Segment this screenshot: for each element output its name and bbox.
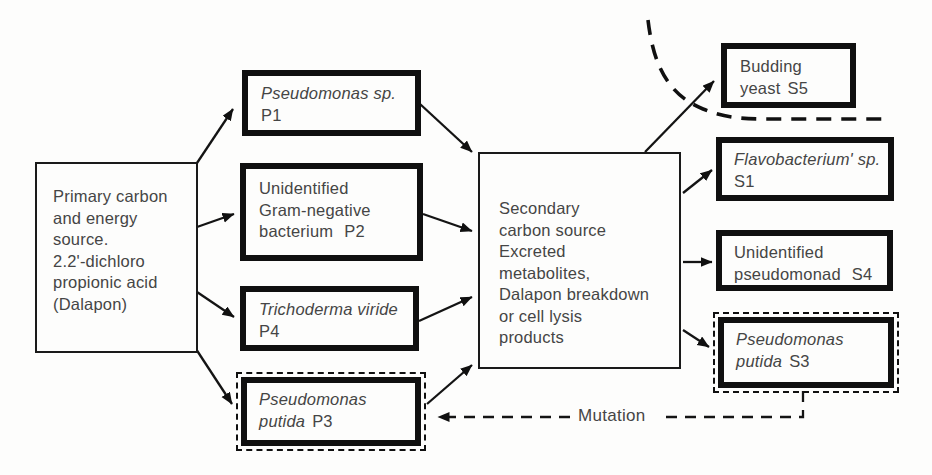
secondary-line: or cell lysis xyxy=(499,306,679,328)
strain-code: S3 xyxy=(789,352,810,370)
arrow-primary-to-p1 xyxy=(197,109,233,163)
arrow-primary-to-p4 xyxy=(197,292,234,317)
pseudomonas-putida-p3-dashed-outline: Pseudomonas putidaP3 xyxy=(236,372,426,451)
arrow-primary-to-p2 xyxy=(197,214,234,227)
diagram-canvas: Primary carbon and energy source. 2.2'-d… xyxy=(0,0,932,475)
mutation-label: Mutation xyxy=(578,406,646,426)
trichoderma-viride-p4-box: Trichoderma viride P4 xyxy=(240,286,419,351)
strain-code: S4 xyxy=(852,265,873,283)
pseudomonas-sp-p1-box: Pseudomonas sp. P1 xyxy=(242,70,421,136)
arrow-p2-to-secondary xyxy=(423,214,472,231)
secondary-line: Secondary xyxy=(499,198,679,220)
node-text: Unidentified xyxy=(259,178,417,200)
pseudomonas-putida-p3-box: Pseudomonas putidaP3 xyxy=(241,377,421,446)
arrow-secondary-to-s5 xyxy=(645,81,714,152)
secondary-line: products xyxy=(499,327,679,349)
strain-code: P3 xyxy=(312,412,333,430)
node-text: Budding xyxy=(740,56,850,78)
primary-carbon-source-box: Primary carbon and energy source. 2.2'-d… xyxy=(35,162,198,353)
unidentified-pseudomonad-s4-box: Unidentified pseudomonadS4 xyxy=(716,230,893,291)
species-name: Flavobacterium' sp. xyxy=(734,149,888,171)
primary-line: (Dalapon) xyxy=(53,294,188,316)
strain-code: S5 xyxy=(787,79,808,97)
pseudomonas-putida-s3-dashed-outline: Pseudomonas putidaS3 xyxy=(713,312,899,393)
mutation-dashed-line-right xyxy=(658,391,803,417)
budding-yeast-s5-box: Budding yeastS5 xyxy=(721,43,856,108)
primary-line: propionic acid xyxy=(53,272,188,294)
arrow-secondary-to-s3 xyxy=(683,330,709,347)
arrow-p4-to-secondary xyxy=(419,297,472,321)
pseudomonas-putida-s3-box: Pseudomonas putidaS3 xyxy=(718,317,894,388)
species-name: putida xyxy=(259,412,305,430)
strain-code: P1 xyxy=(261,105,415,127)
species-name: Pseudomonas sp. xyxy=(261,83,415,105)
unidentified-gram-negative-p2-box: Unidentified Gram-negative bacteriumP2 xyxy=(240,163,423,261)
primary-line: Primary carbon xyxy=(53,186,188,208)
secondary-line: Excreted xyxy=(499,241,679,263)
primary-line: 2.2'-dichloro xyxy=(53,251,188,273)
species-name: Pseudomonas xyxy=(736,329,888,351)
secondary-carbon-source-box: Secondary carbon source Excreted metabol… xyxy=(478,152,681,369)
primary-line: source. xyxy=(53,229,188,251)
node-text: pseudomonad xyxy=(734,265,841,283)
node-text: bacterium xyxy=(259,222,333,240)
node-text: yeast xyxy=(740,79,780,97)
arrow-p1-to-secondary xyxy=(420,104,472,152)
arrow-secondary-to-s1 xyxy=(683,170,712,193)
primary-line: and energy xyxy=(53,208,188,230)
flavobacterium-s1-box: Flavobacterium' sp. S1 xyxy=(716,137,894,201)
strain-code: P4 xyxy=(259,321,413,343)
secondary-line: carbon source xyxy=(499,220,679,242)
node-text: Gram-negative xyxy=(259,200,417,222)
strain-code: S1 xyxy=(734,171,888,193)
secondary-line: metabolites, xyxy=(499,263,679,285)
node-text: Unidentified xyxy=(734,242,887,264)
species-name: Pseudomonas xyxy=(259,389,415,411)
strain-code: P2 xyxy=(344,222,365,240)
arrow-p3-to-secondary xyxy=(427,365,472,404)
secondary-line: Dalapon breakdown xyxy=(499,284,679,306)
species-name: putida xyxy=(736,352,782,370)
arrow-primary-to-p3 xyxy=(196,349,232,404)
species-name: Trichoderma viride xyxy=(259,299,413,321)
